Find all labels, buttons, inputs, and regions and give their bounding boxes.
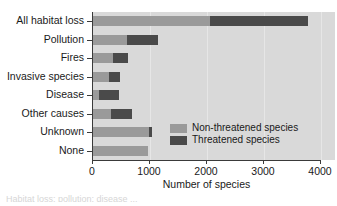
y-axis-tick [87, 40, 92, 41]
legend-item[interactable]: Non-threatened species [170, 123, 298, 133]
y-axis-label: None [59, 145, 84, 156]
bar-segment [99, 90, 119, 100]
species-threat-chart: All habitat lossPollutionFiresInvasive s… [0, 0, 337, 206]
y-axis-tick [87, 114, 92, 115]
x-axis-tick [263, 160, 264, 164]
x-axis-tick [149, 160, 150, 164]
legend-swatch [170, 124, 187, 133]
bar-segment [109, 72, 120, 82]
x-axis-tick [92, 160, 93, 164]
x-axis-title: Number of species [92, 178, 321, 190]
bar-segment [127, 35, 158, 45]
y-axis-tick [87, 21, 92, 22]
bar-row[interactable] [93, 90, 119, 100]
x-axis-tick [206, 160, 207, 164]
bar-segment [93, 146, 148, 156]
bar-segment [210, 16, 308, 26]
bar-row[interactable] [93, 127, 152, 137]
x-axis-tick-label: 0 [89, 165, 95, 177]
x-axis-tick-label: 1000 [137, 165, 160, 177]
legend-label: Non-threatened species [192, 123, 298, 133]
y-axis-tick [87, 77, 92, 78]
y-axis-label: Pollution [44, 34, 84, 45]
legend-item[interactable]: Threatened species [170, 135, 298, 145]
bar-segment [93, 35, 127, 45]
bar-segment [93, 127, 149, 137]
x-axis: Number of species 01000200030004000 [92, 160, 335, 190]
bar-row[interactable] [93, 146, 148, 156]
x-axis-tick [320, 160, 321, 164]
bar-segment [93, 72, 109, 82]
bar-row[interactable] [93, 53, 128, 63]
y-axis-label: Unknown [40, 126, 84, 137]
bar-segment [149, 127, 152, 137]
x-axis-tick-label: 4000 [308, 165, 331, 177]
y-axis-label: All habitat loss [16, 15, 84, 26]
bar-segment [93, 16, 210, 26]
bar-segment [111, 109, 132, 119]
y-axis: All habitat lossPollutionFiresInvasive s… [0, 12, 92, 160]
x-axis-tick-label: 2000 [194, 165, 217, 177]
y-axis-label: Disease [46, 89, 84, 100]
x-axis-tick-label: 3000 [251, 165, 274, 177]
legend-swatch [170, 136, 187, 145]
bar-row[interactable] [93, 16, 308, 26]
page-text-artifact: Habitat loss; pollution; disease ... [6, 194, 138, 202]
bar-row[interactable] [93, 35, 158, 45]
legend: Non-threatened speciesThreatened species [170, 123, 298, 145]
bar-row[interactable] [93, 109, 132, 119]
y-axis-label: Fires [61, 52, 84, 63]
legend-label: Threatened species [192, 135, 280, 145]
bar-segment [93, 53, 113, 63]
bar-segment [113, 53, 128, 63]
y-axis-tick [87, 58, 92, 59]
bar-segment [93, 109, 111, 119]
y-axis-tick [87, 151, 92, 152]
bar-row[interactable] [93, 72, 120, 82]
y-axis-label: Other causes [22, 108, 84, 119]
y-axis-tick [87, 95, 92, 96]
y-axis-tick [87, 132, 92, 133]
y-axis-label: Invasive species [7, 71, 84, 82]
